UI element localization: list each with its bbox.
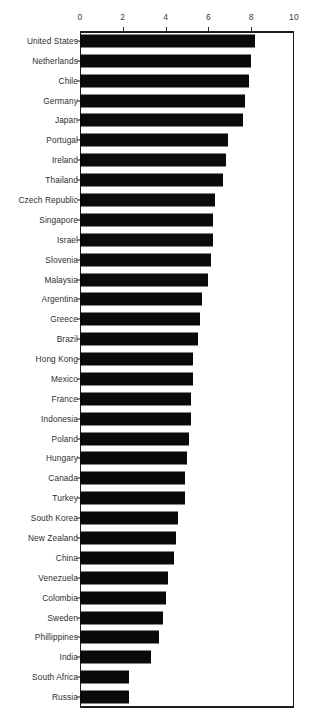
bar (80, 412, 191, 425)
bar (80, 651, 151, 664)
bar-row: Netherlands (0, 51, 319, 71)
category-label: Netherlands (32, 56, 78, 66)
category-label: India (60, 652, 79, 662)
axis-baseline (80, 707, 294, 708)
bar-row: Israel (0, 230, 319, 250)
category-label: China (56, 553, 78, 563)
bar (80, 392, 191, 405)
bar-row: Phillippines (0, 627, 319, 647)
category-label: Hungary (46, 453, 78, 463)
category-label: Canada (48, 473, 78, 483)
bar-row: Brazil (0, 329, 319, 349)
bar (80, 691, 129, 704)
bar (80, 114, 243, 127)
bar-row: Poland (0, 429, 319, 449)
category-label: Greece (50, 314, 78, 324)
bar (80, 273, 208, 286)
x-axis: 0246810 (0, 0, 319, 31)
bar-row: New Zealand (0, 528, 319, 548)
category-label: Turkey (52, 493, 78, 503)
category-label: New Zealand (28, 533, 78, 543)
bar (80, 432, 189, 445)
bar (80, 94, 245, 107)
category-label: Phillippines (35, 632, 78, 642)
bar (80, 193, 215, 206)
bar-row: Ireland (0, 150, 319, 170)
bar-row: Malaysia (0, 270, 319, 290)
bar-row: Greece (0, 309, 319, 329)
bar (80, 134, 228, 147)
bar-chart: 0246810 United StatesNetherlandsChileGer… (0, 0, 319, 720)
bar-row: France (0, 389, 319, 409)
bar (80, 293, 202, 306)
bar (80, 233, 213, 246)
bar (80, 512, 178, 525)
category-label: South Korea (31, 513, 78, 523)
bar (80, 452, 187, 465)
bar (80, 353, 193, 366)
category-label: Thailand (45, 175, 78, 185)
bar (80, 492, 185, 505)
bar (80, 472, 185, 485)
bar-row: Slovenia (0, 250, 319, 270)
category-label: United States (27, 36, 78, 46)
bar-row: China (0, 548, 319, 568)
category-label: Mexico (51, 374, 78, 384)
bar (80, 671, 129, 684)
bar-row: Singapore (0, 210, 319, 230)
bar-row: Thailand (0, 170, 319, 190)
bar-row: Argentina (0, 289, 319, 309)
bar-rows: United StatesNetherlandsChileGermanyJapa… (0, 31, 319, 707)
bar (80, 174, 223, 187)
category-label: Portugal (46, 135, 78, 145)
bar-row: South Africa (0, 667, 319, 687)
category-label: Slovenia (45, 255, 78, 265)
bar-row: Hong Kong (0, 349, 319, 369)
bar (80, 54, 251, 67)
x-tick-label: 0 (78, 12, 83, 22)
bar (80, 571, 168, 584)
bar (80, 611, 163, 624)
category-label: Poland (52, 434, 78, 444)
bar (80, 372, 193, 385)
bar (80, 591, 166, 604)
bar (80, 551, 174, 564)
bar-row: United States (0, 31, 319, 51)
bar-row: Russia (0, 687, 319, 707)
bar-row: Czech Republic (0, 190, 319, 210)
category-label: Czech Republic (18, 195, 78, 205)
bar (80, 313, 200, 326)
bar (80, 631, 159, 644)
category-label: Indonesia (41, 414, 78, 424)
category-label: Germany (43, 96, 78, 106)
bar (80, 333, 198, 346)
bar-row: Indonesia (0, 409, 319, 429)
bar (80, 154, 226, 167)
bar-row: Colombia (0, 588, 319, 608)
category-label: Japan (55, 115, 78, 125)
bar-row: Chile (0, 71, 319, 91)
bar-row: Hungary (0, 449, 319, 469)
bar-row: Germany (0, 91, 319, 111)
category-label: Sweden (47, 613, 78, 623)
category-label: Ireland (52, 155, 78, 165)
category-label: Colombia (42, 593, 78, 603)
x-tick-label: 8 (249, 12, 254, 22)
bar-row: Canada (0, 468, 319, 488)
category-label: Argentina (42, 294, 78, 304)
x-tick-label: 2 (120, 12, 125, 22)
bar-row: Venezuela (0, 568, 319, 588)
x-tick-label: 6 (206, 12, 211, 22)
category-label: Russia (52, 692, 78, 702)
category-label: Singapore (39, 215, 78, 225)
bar-row: Japan (0, 111, 319, 131)
category-label: Venezuela (38, 573, 78, 583)
bar (80, 531, 176, 544)
bar (80, 74, 249, 87)
bar (80, 34, 255, 47)
category-label: Brazil (57, 334, 78, 344)
bar-row: Turkey (0, 488, 319, 508)
bar-row: Mexico (0, 369, 319, 389)
bar-row: South Korea (0, 508, 319, 528)
category-label: France (52, 394, 78, 404)
